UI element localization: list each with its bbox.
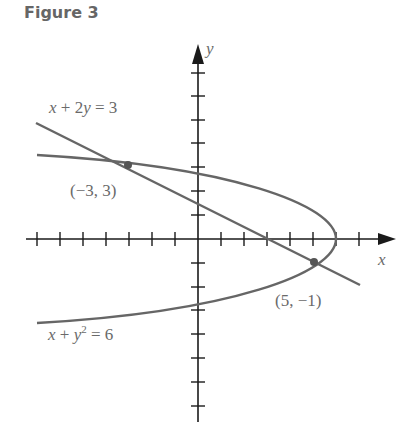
x-axis-arrow-icon <box>378 233 396 245</box>
y-axis-label: y <box>204 39 214 58</box>
y-axis-arrow-icon <box>192 44 204 64</box>
parabola-equation-label: x + y2 = 6 <box>47 323 113 344</box>
line-equation-label: x + 2y = 3 <box>48 98 117 117</box>
point-5-neg1 <box>310 258 318 266</box>
point-neg3-3 <box>124 161 132 169</box>
point-label-neg3-3: (−3, 3) <box>70 181 116 200</box>
x-axis-label: x <box>377 250 386 269</box>
point-label-5-neg1: (5, −1) <box>275 291 321 310</box>
chart-plot: y x x + 2y = 3 x + y2 = 6 (−3, 3) (5, −1… <box>0 0 420 446</box>
